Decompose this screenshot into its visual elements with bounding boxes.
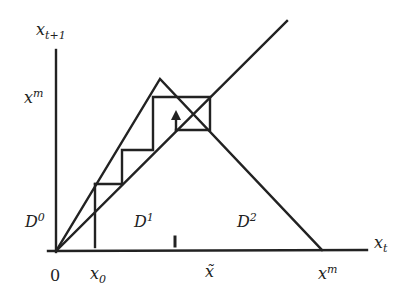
x-tick-xm-sup: m bbox=[327, 263, 337, 276]
x-tick-x0-sub: 0 bbox=[99, 273, 106, 286]
x-axis-label-sub: t bbox=[383, 242, 387, 255]
y-axis-label: xt+1 bbox=[36, 22, 66, 41]
x-axis bbox=[48, 250, 367, 251]
region-d1-base: D bbox=[134, 212, 147, 231]
x-tick-x0: x0 bbox=[90, 266, 106, 285]
region-d1-sup: 1 bbox=[147, 211, 154, 224]
x-tick-xm: xm bbox=[318, 264, 337, 282]
x-tick-x-tilde-base: x̃ bbox=[205, 262, 214, 281]
cobweb-staircase bbox=[95, 97, 210, 184]
x-axis-label-base: x bbox=[374, 233, 383, 252]
x-tick-x-tilde: x̃ bbox=[205, 264, 214, 280]
y-tick-sup: m bbox=[33, 87, 43, 100]
y-axis-label-sub: t+1 bbox=[45, 29, 66, 42]
cobweb-diagram bbox=[0, 0, 411, 295]
region-d1: D1 bbox=[134, 212, 154, 230]
y-axis-label-base: x bbox=[36, 20, 45, 39]
x-tick-x0-base: x bbox=[90, 264, 99, 283]
region-d2-sup: 2 bbox=[250, 211, 257, 224]
region-d0: D0 bbox=[25, 212, 45, 230]
region-d2-base: D bbox=[237, 212, 250, 231]
y-tick-base: x bbox=[24, 88, 33, 107]
arrow-head-icon bbox=[171, 110, 181, 120]
x-tick-xm-base: x bbox=[318, 264, 327, 283]
y-tick-xm: xm bbox=[24, 88, 43, 106]
region-d0-sup: 0 bbox=[38, 211, 45, 224]
origin-label: 0 bbox=[50, 268, 60, 284]
region-d0-base: D bbox=[25, 212, 38, 231]
x-axis-label: xt bbox=[374, 235, 387, 254]
region-d2: D2 bbox=[237, 212, 257, 230]
